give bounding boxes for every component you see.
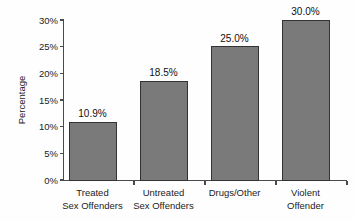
chart-canvas: Percentage 30% 25% 20% 15% 10% 5% 0%: [0, 0, 355, 222]
value-label-untreated-sex-offenders: 18.5%: [149, 67, 177, 78]
category-label-violent-line1: Violent: [291, 187, 320, 198]
category-label-untreated-line1: Untreated: [143, 187, 185, 198]
y-tick-label-15: 15%: [39, 95, 59, 106]
y-tick-label-10: 10%: [39, 121, 59, 132]
y-axis: [60, 20, 64, 180]
value-label-violent-offender: 30.0%: [291, 6, 319, 17]
category-label-drugs-other-line1: Drugs/Other: [209, 187, 261, 198]
category-label-treated-line1: Treated: [76, 187, 108, 198]
bar-drugs-other: [211, 47, 258, 180]
y-tick-label-5: 5%: [44, 148, 58, 159]
y-tick-label-30: 30%: [39, 15, 59, 26]
y-axis-tick-labels: 30% 25% 20% 15% 10% 5% 0%: [39, 15, 59, 186]
category-label-violent-line2: Offender: [287, 200, 324, 211]
category-label-treated-line2: Sex Offenders: [62, 200, 123, 211]
bar-treated-sex-offenders: [69, 122, 116, 180]
value-label-treated-sex-offenders: 10.9%: [78, 108, 106, 119]
x-axis-category-labels: Treated Sex Offenders Untreated Sex Offe…: [62, 187, 324, 211]
bar-series: [69, 20, 329, 180]
x-axis: [64, 181, 348, 186]
bar-untreated-sex-offenders: [140, 81, 187, 180]
category-label-untreated-line2: Sex Offenders: [133, 200, 194, 211]
y-axis-title: Percentage: [16, 76, 27, 125]
bar-chart-figure: Percentage 30% 25% 20% 15% 10% 5% 0%: [0, 0, 355, 222]
bar-violent-offender: [282, 20, 329, 180]
y-axis-title-group: Percentage: [16, 76, 27, 125]
y-tick-label-20: 20%: [39, 68, 59, 79]
y-tick-label-25: 25%: [39, 41, 59, 52]
value-label-drugs-other: 25.0%: [220, 33, 248, 44]
y-tick-label-0: 0%: [44, 175, 58, 186]
